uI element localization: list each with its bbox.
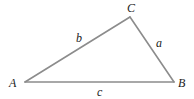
side-a [130, 17, 174, 82]
triangle-diagram: A B C a b c [0, 0, 194, 99]
vertex-label-b: B [178, 76, 186, 90]
side-label-a: a [156, 36, 162, 50]
vertex-label-a: A [8, 76, 17, 90]
vertex-label-c: C [127, 1, 136, 15]
side-label-b: b [76, 31, 82, 45]
side-b [25, 17, 130, 82]
side-label-c: c [97, 85, 103, 99]
